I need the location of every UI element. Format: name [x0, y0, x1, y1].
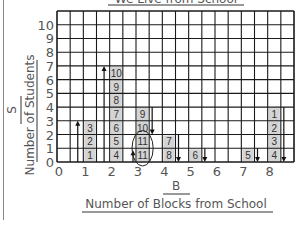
x-axis-letter-group: B: [163, 179, 190, 194]
bar-cell-label: 8: [166, 150, 172, 161]
bar-cell-label: 5: [245, 150, 251, 161]
y-axis-ticks: 012345678910: [37, 18, 54, 170]
x-tick-label: 4: [160, 164, 168, 179]
y-tick-label: 5: [46, 86, 54, 101]
bar-cell-label: 3: [87, 123, 93, 134]
x-tick-label: 6: [213, 164, 221, 179]
y-tick-label: 9: [46, 31, 54, 46]
x-tick-label: 8: [266, 164, 274, 179]
y-tick-label: 8: [46, 45, 54, 60]
x-tick-label: 0: [55, 164, 63, 179]
title-group: We Live from School: [108, 0, 244, 6]
x-tick-label: 5: [187, 164, 195, 179]
arrow-up-icon: [102, 66, 107, 71]
x-axis-ticks: 012345678: [55, 164, 274, 179]
y-tick-label: 10: [37, 18, 54, 33]
arrow-down-icon: [150, 130, 155, 135]
x-tick-label: 1: [81, 164, 89, 179]
blocks-from-school-chart: We Live from School 12345678910111110987…: [0, 0, 299, 226]
y-tick-label: 2: [46, 128, 54, 143]
bar-cell-label: 11: [137, 136, 148, 147]
y-tick-label: 7: [46, 59, 54, 74]
y-tick-label: 3: [46, 114, 54, 129]
bar-cell-label: 7: [166, 136, 172, 147]
bar-cell-label: 6: [113, 123, 119, 134]
y-tick-label: 1: [46, 141, 54, 156]
x-axis-letter: B: [172, 179, 180, 193]
x-tick-label: 2: [108, 164, 116, 179]
bar-cell-label: 1: [87, 150, 93, 161]
bar-cell-label: 3: [271, 136, 277, 147]
x-axis-label: Number of Blocks from School: [85, 197, 267, 211]
arrow-up-icon: [75, 121, 80, 126]
bar-cell-label: 8: [113, 95, 119, 106]
bar-cell-label: 5: [113, 136, 119, 147]
bar-cell-label: 9: [140, 109, 146, 120]
x-tick-label: 7: [239, 164, 247, 179]
bar-cell-label: 11: [137, 150, 148, 161]
bar-cell-label: 2: [271, 123, 277, 134]
x-tick-label: 3: [134, 164, 142, 179]
y-axis-letter-group: S: [5, 96, 21, 124]
bar-cell-label: 4: [271, 150, 277, 161]
x-axis-label-group: Number of Blocks from School: [82, 197, 273, 212]
bar-cell-label: 1: [271, 109, 277, 120]
y-axis-letter: S: [5, 106, 19, 114]
bar-cell-label: 4: [113, 150, 119, 161]
y-tick-label: 6: [46, 73, 54, 88]
y-tick-label: 4: [46, 100, 54, 115]
y-axis-label: Number of Students: [23, 55, 37, 176]
bar-cell-label: 10: [111, 68, 123, 79]
y-tick-label: 0: [46, 155, 54, 170]
bar-cell-label: 6: [192, 150, 198, 161]
bar-cell-label: 2: [87, 136, 93, 147]
y-axis-label-group: Number of Students: [23, 55, 37, 176]
bar-cell-label: 7: [113, 109, 119, 120]
bar-cell-label: 9: [113, 82, 119, 93]
